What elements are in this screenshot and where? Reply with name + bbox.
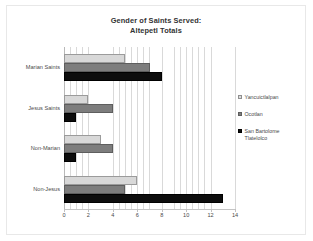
legend-item-label: San BartolomeTlatelolco (245, 128, 311, 141)
bar (64, 104, 113, 113)
bar (64, 72, 162, 81)
chart-title-line-1: Gender of Saints Served: (7, 16, 305, 26)
bar-group (64, 169, 235, 210)
legend-swatch-icon (238, 95, 242, 99)
chart-title: Gender of Saints Served: Altepetl Totals (7, 16, 305, 35)
bar (64, 176, 137, 185)
bar (64, 54, 125, 63)
y-axis-tick-label: Marian Saints (26, 64, 60, 71)
legend-swatch-icon (238, 129, 242, 133)
bar-group (64, 129, 235, 170)
bar (64, 153, 76, 162)
bar (64, 135, 101, 144)
bar (64, 185, 125, 194)
legend-item[interactable]: Ocotlan (238, 111, 310, 119)
legend-item[interactable]: Yancuictlalpan (238, 94, 310, 102)
y-axis-labels: Marian SaintsJesus SaintsNon-MarianNon-J… (7, 47, 64, 210)
y-axis-tick-label: Jesus Saints (28, 105, 60, 112)
x-axis-tick-label: 14 (227, 212, 243, 218)
legend-swatch-icon (238, 112, 242, 116)
legend-item-label: Ocotlan (245, 111, 311, 118)
y-axis-tick-label: Non-Marian (31, 145, 60, 152)
bar (64, 194, 223, 203)
x-axis-tick-label: 8 (154, 212, 170, 218)
bar (64, 63, 150, 72)
bar (64, 144, 113, 153)
x-axis-tick-label: 10 (178, 212, 194, 218)
x-axis-tick-label: 6 (129, 212, 145, 218)
x-axis-tick-label: 4 (105, 212, 121, 218)
x-axis-labels: 02468101214 (64, 212, 235, 224)
x-axis-tick-label: 2 (80, 212, 96, 218)
bar-group (64, 47, 235, 88)
x-axis-tick-label: 0 (56, 212, 72, 218)
plot-area (64, 47, 235, 210)
bar-group (64, 88, 235, 129)
bar (64, 95, 88, 104)
chart-title-line-2: Altepetl Totals (7, 26, 305, 36)
chart-legend: YancuictlalpanOcotlanSan BartolomeTlatel… (238, 94, 310, 150)
chart-frame: Gender of Saints Served: Altepetl Totals… (6, 5, 306, 235)
bar (64, 113, 76, 122)
x-axis-tick-label: 12 (203, 212, 219, 218)
legend-item-label: Yancuictlalpan (245, 94, 311, 101)
gridline-major (235, 47, 236, 210)
legend-item[interactable]: San BartolomeTlatelolco (238, 128, 310, 141)
y-axis-tick-label: Non-Jesus (33, 186, 60, 193)
